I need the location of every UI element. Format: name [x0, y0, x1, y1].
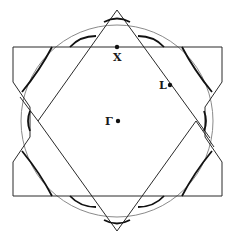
triangle-up-right-edge	[117, 10, 210, 138]
brillouin-zone-diagram: X L Γ	[0, 0, 233, 242]
label-X: X	[113, 51, 122, 64]
point-Gamma-marker	[116, 119, 120, 123]
triangle-down-right-edge	[117, 121, 196, 231]
point-X-marker	[115, 45, 119, 49]
point-L-marker	[168, 83, 172, 87]
triangle-up-left-edge	[38, 10, 117, 121]
label-Gamma: Γ	[105, 115, 113, 128]
triangle-down-left-edge	[38, 121, 117, 231]
diagram-canvas: X L Γ	[0, 0, 233, 242]
label-L: L	[159, 79, 167, 92]
